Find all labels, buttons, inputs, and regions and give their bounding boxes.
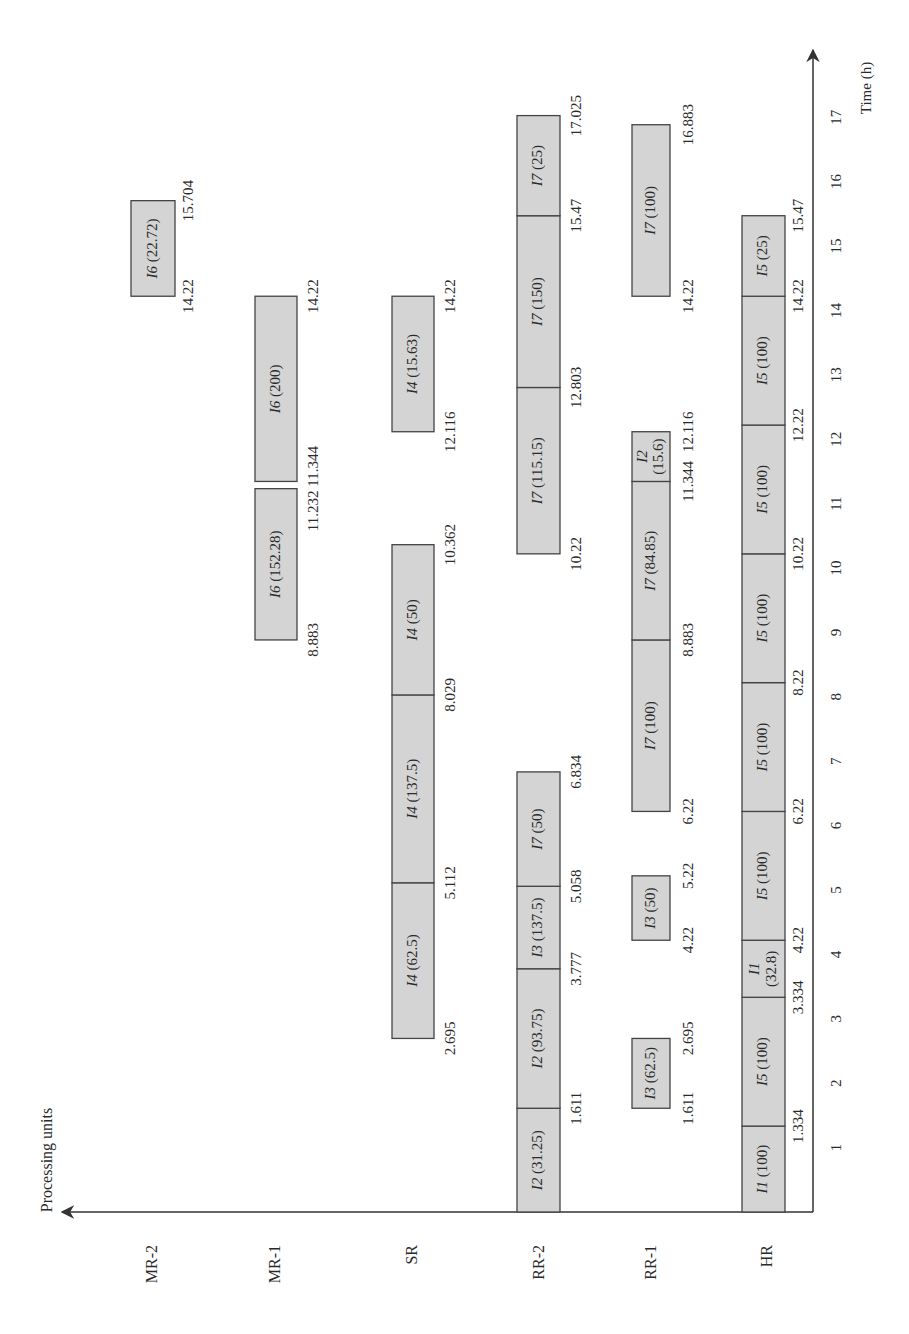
time-annotation: 12.803	[568, 367, 584, 408]
task-bar: I7 (150)	[517, 216, 560, 388]
time-annotation: 14.22	[305, 279, 321, 313]
time-annotation: 4.22	[790, 927, 806, 953]
task-label: I4 (50)	[404, 599, 421, 641]
time-annotation: 11.232 11.344	[305, 446, 321, 532]
time-annotation: 2.695	[442, 1022, 458, 1056]
time-annotation: 10.22	[568, 537, 584, 571]
time-annotation: 14.22	[790, 279, 806, 313]
task-label: I4 (137.5)	[404, 759, 421, 820]
time-annotation: 14.22	[180, 279, 196, 313]
time-annotation: 15.47	[568, 198, 584, 232]
time-annotation: 12.22	[790, 408, 806, 442]
task-bar: I7 (100)	[632, 640, 670, 811]
task-bar: I6 (200)	[255, 296, 297, 481]
task-bar: I5 (100)	[742, 296, 785, 425]
y-axis-title: Processing units	[38, 1108, 56, 1212]
task-bar: I1 (100)	[742, 1126, 785, 1212]
time-annotation: 10.362	[442, 524, 458, 565]
time-annotation: 17.025	[568, 95, 584, 136]
task-bar: I7 (100)	[632, 125, 670, 296]
time-annotation: 8.883	[305, 623, 321, 657]
x-tick-label: 10	[828, 561, 844, 576]
task-bar: I3 (62.5)	[632, 1038, 670, 1108]
time-annotation: 15.47	[790, 198, 806, 232]
task-bar: I5 (100)	[742, 425, 785, 554]
task-bar: I2(15.6)	[632, 432, 670, 482]
time-annotation: 11.344	[680, 461, 696, 502]
x-tick-label: 13	[828, 367, 844, 382]
time-annotation: 14.22	[442, 279, 458, 313]
time-annotation: 5.058	[568, 869, 584, 903]
task-label: I7 (150)	[530, 277, 547, 327]
time-annotation: 8.883	[680, 623, 696, 657]
time-annotation: 8.029	[442, 678, 458, 712]
task-bar: I6 (152.28)	[255, 489, 297, 640]
task-label: I6 (152.28)	[267, 531, 284, 600]
x-tick-label: 4	[828, 950, 844, 958]
x-tick-label: 15	[828, 239, 844, 254]
x-tick-label: 1	[828, 1144, 844, 1152]
task-bar: I5 (100)	[742, 683, 785, 812]
task-bar: I2 (93.75)	[517, 969, 560, 1108]
task-label: I5 (100)	[755, 851, 772, 901]
task-label: I5 (100)	[755, 594, 772, 644]
x-tick-label: 7	[828, 757, 844, 765]
time-annotation: 8.22	[790, 670, 806, 696]
x-tick-label: 12	[828, 432, 844, 447]
task-label: I2 (31.25)	[530, 1130, 547, 1191]
time-annotation: 1.611	[680, 1092, 696, 1125]
unit-label-mr-1: MR-1	[266, 1245, 283, 1283]
x-tick-label: 2	[828, 1079, 844, 1087]
task-label: I7 (84.85)	[642, 531, 659, 592]
task-bar: I4 (137.5)	[392, 695, 434, 883]
unit-label-sr: SR	[403, 1245, 420, 1265]
task-label: I3 (50)	[642, 887, 659, 929]
x-tick-label: 17	[828, 109, 844, 125]
time-annotation: 6.834	[568, 755, 584, 789]
time-annotation: 12.116	[442, 411, 458, 452]
task-bar: I7 (25)	[517, 116, 560, 216]
task-bar: I4 (62.5)	[392, 883, 434, 1039]
task-bar: I5 (25)	[742, 216, 785, 297]
time-annotation: 15.704	[180, 180, 196, 222]
x-tick-label: 8	[828, 693, 844, 701]
time-annotation: 4.22	[680, 927, 696, 953]
time-annotation: 6.22	[680, 798, 696, 824]
task-bar: I6 (22.72)	[131, 201, 175, 297]
task-label: I5 (25)	[755, 235, 772, 277]
x-tick-label: 16	[828, 174, 844, 190]
time-annotation: 5.112	[442, 866, 458, 899]
gantt-chart: I1 (100)I5 (100)I1(32.8)I5 (100)I5 (100)…	[0, 0, 909, 1334]
task-bar: I7 (115.15)	[517, 387, 560, 553]
x-tick-label: 9	[828, 629, 844, 637]
x-tick-label: 14	[828, 302, 844, 318]
time-annotation: 10.22	[790, 537, 806, 571]
task-label: I7 (100)	[642, 186, 659, 236]
time-annotation: 3.334	[790, 980, 806, 1014]
task-label: I5 (100)	[755, 336, 772, 386]
task-label: I4 (62.5)	[404, 934, 421, 988]
time-annotation: 2.695	[680, 1022, 696, 1056]
x-tick-label: 3	[828, 1015, 844, 1023]
x-axis-title: Time (h)	[858, 62, 875, 114]
task-bar: I3 (50)	[632, 876, 670, 940]
task-label: I2 (93.75)	[530, 1009, 547, 1070]
unit-label-hr: HR	[758, 1245, 775, 1268]
x-tick-label: 11	[828, 496, 844, 510]
task-label: I5 (100)	[755, 723, 772, 773]
unit-label-rr-1: RR-1	[642, 1245, 659, 1280]
task-bar: I1(32.8)	[742, 940, 785, 997]
task-bar: I4 (50)	[392, 545, 434, 695]
task-label: I5 (100)	[755, 1037, 772, 1087]
task-label: I6 (22.72)	[144, 218, 161, 279]
task-bar: I7 (50)	[517, 772, 560, 886]
task-label: I3 (62.5)	[642, 1047, 659, 1101]
task-bar: I5 (100)	[742, 811, 785, 940]
x-tick-label: 5	[828, 886, 844, 894]
task-bar: I4 (15.63)	[392, 296, 434, 431]
x-tick-label: 6	[828, 821, 844, 829]
task-label: I7 (25)	[530, 145, 547, 187]
time-annotation: 6.22	[790, 798, 806, 824]
task-label: I7 (115.15)	[530, 437, 547, 505]
task-bar: I2 (31.25)	[517, 1108, 560, 1212]
